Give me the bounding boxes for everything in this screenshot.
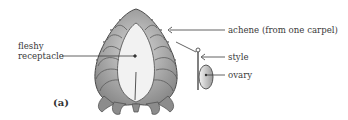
strawberry-body	[95, 9, 177, 114]
panel-label: (a)	[53, 97, 69, 108]
label-receptacle: receptacle	[18, 51, 64, 61]
label-ovary: ovary	[228, 70, 252, 80]
label-fleshy: fleshy	[18, 41, 44, 51]
label-style: style	[228, 52, 249, 62]
strawberry-diagram: fleshy receptacle achene (from one carpe…	[0, 0, 348, 120]
label-achene: achene (from one carpel)	[228, 25, 338, 35]
